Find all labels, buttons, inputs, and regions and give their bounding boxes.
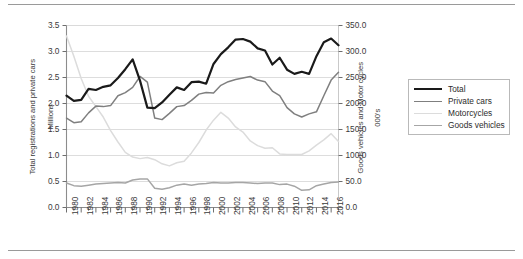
right-axis-tick-label: 100.0 [346, 150, 378, 160]
right-axis-tick-label: 50.0 [346, 176, 378, 186]
x-axis-tick-label: 2000 [217, 185, 227, 215]
x-axis-tick-label: 1996 [188, 185, 198, 215]
legend-swatch-line-icon [414, 88, 442, 90]
chart-legend: TotalPrivate carsMotorcyclesGoods vehicl… [408, 79, 510, 135]
left-axis-tick-label: 1.5 [32, 124, 60, 134]
left-axis-tick-label: 2.5 [32, 72, 60, 82]
right-axis-tick-label: 300.0 [346, 46, 378, 56]
x-axis-tick-label: 2004 [247, 185, 257, 215]
x-axis-tick-label: 1988 [129, 185, 139, 215]
left-axis-tick-label: 3.5 [32, 20, 60, 30]
x-axis-tick-label: 1980 [70, 185, 80, 215]
right-axis-ticks [339, 26, 343, 208]
x-axis-tick-label: 1986 [114, 185, 124, 215]
x-axis-tick-label: 2006 [261, 185, 271, 215]
left-axis-ticks [63, 26, 67, 208]
right-axis-tick-label: 0.0 [346, 202, 378, 212]
x-axis-tick-label: 2002 [232, 185, 242, 215]
left-axis-tick-label: 1.0 [32, 150, 60, 160]
left-axis-tick-label: 3.0 [32, 46, 60, 56]
x-axis-tick-label: 1992 [158, 185, 168, 215]
gridlines [67, 26, 339, 208]
x-axis-tick-label: 1994 [173, 185, 183, 215]
right-axis-tick-label: 350.0 [346, 20, 378, 30]
x-axis-tick-label: 1982 [85, 185, 95, 215]
x-axis-tick-label: 1998 [202, 185, 212, 215]
series-line-private-cars [67, 72, 339, 122]
left-axis-tick-label: 0.0 [32, 202, 60, 212]
legend-item: Total [409, 83, 509, 95]
legend-item: Private cars [409, 95, 509, 107]
legend-swatch-line-icon [414, 101, 442, 102]
legend-label: Goods vehicles [448, 120, 505, 130]
x-axis-tick-label: 2014 [320, 185, 330, 215]
legend-item: Motorcycles [409, 107, 509, 119]
x-axis-tick-label: 2008 [276, 185, 286, 215]
right-axis-tick-label: 250.0 [346, 72, 378, 82]
plot-frame [67, 26, 339, 208]
legend-label: Motorcycles [448, 108, 492, 118]
x-axis-tick-label: 2010 [291, 185, 301, 215]
legend-swatch-line-icon [414, 113, 442, 114]
chart-figure: Total registrations and private cars Mil… [0, 0, 523, 259]
legend-label: Total [448, 84, 466, 94]
x-axis-tick-label: 2016 [335, 185, 345, 215]
legend-swatch-line-icon [414, 125, 442, 126]
legend-label: Private cars [448, 96, 492, 106]
x-axis-tick-label: 2012 [305, 185, 315, 215]
right-axis-tick-label: 200.0 [346, 98, 378, 108]
left-axis-tick-label: 2.0 [32, 98, 60, 108]
x-axis-tick-label: 1990 [144, 185, 154, 215]
left-axis-tick-label: 0.5 [32, 176, 60, 186]
series-line-motorcycles [67, 36, 339, 166]
series-lines [67, 36, 339, 190]
legend-item: Goods vehicles [409, 119, 509, 131]
right-axis-tick-label: 150.0 [346, 124, 378, 134]
series-line-total [67, 39, 339, 109]
x-axis-tick-label: 1984 [100, 185, 110, 215]
